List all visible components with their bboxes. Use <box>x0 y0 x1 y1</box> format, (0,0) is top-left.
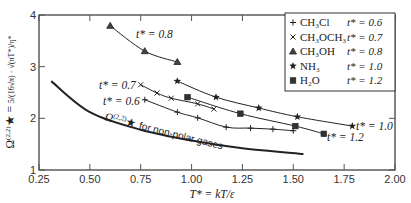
x-tick-label: 1.25 <box>232 173 253 185</box>
y-tick-label: 2 <box>30 112 36 124</box>
y-tick-label: 3 <box>30 61 36 73</box>
legend-species: CH₃Cl <box>300 16 330 28</box>
x-tick-label: 0.75 <box>130 173 151 185</box>
legend-tstar: t* = 0.6 <box>347 16 383 28</box>
cross-marker-icon <box>211 107 216 112</box>
label-nonpolar: Ω(2,2)★ for non-polar gases <box>104 110 225 151</box>
star-marker-icon <box>212 93 220 100</box>
chart: 0.250.500.751.001.251.501.752.001234 Ω(2… <box>0 0 411 203</box>
svg-text:Ω(2,2)★ = 5/(16√π) · √(πT*)/η*: Ω(2,2)★ = 5/(16√π) · √(πT*)/η* <box>4 36 16 149</box>
label-t08: t* = 0.8 <box>136 28 173 40</box>
plus-marker-icon <box>270 126 276 132</box>
square-marker-icon <box>238 111 244 117</box>
label-t07: t* = 0.7 <box>99 79 137 91</box>
svg-text:Ω(2,2)★ for non-polar gases: Ω(2,2)★ for non-polar gases <box>104 110 225 151</box>
y-tick-label: 1 <box>30 164 36 176</box>
plus-marker-icon <box>195 115 201 121</box>
legend-species: NH₃ <box>300 60 320 72</box>
plus-marker-icon <box>174 109 180 115</box>
plus-marker-icon <box>142 97 148 103</box>
triangle-marker-icon <box>141 48 148 54</box>
x-tick-label: 1.75 <box>333 173 354 185</box>
series-line <box>141 85 214 109</box>
star-marker-icon <box>174 77 182 84</box>
star-marker-icon <box>255 104 263 111</box>
legend-tstar: t* = 1.0 <box>347 60 383 72</box>
x-tick-label: 1.00 <box>181 173 202 185</box>
legend-species: CH₃OH <box>300 45 335 57</box>
y-tick-label: 4 <box>30 9 36 21</box>
x-tick-label: 1.50 <box>283 173 304 185</box>
square-marker-icon <box>321 131 327 137</box>
plus-marker-icon <box>223 124 229 130</box>
plus-marker-icon <box>248 125 254 131</box>
legend-species: H₂O <box>300 74 320 86</box>
legend: CH₃Clt* = 0.6CH₃OCH₃t* = 0.7CH₃OHt* = 0.… <box>285 13 395 91</box>
legend-tstar: t* = 1.2 <box>347 74 383 86</box>
legend-tstar: t* = 0.8 <box>347 45 383 57</box>
legend-species: CH₃OCH₃ <box>300 31 346 43</box>
label-t06: t* = 0.6 <box>103 95 140 107</box>
legend-row: CH₃OCH₃t* = 0.7 <box>291 31 383 43</box>
nonpolar-curve <box>51 81 303 154</box>
x-axis-label: T* = kT/ε <box>190 188 235 200</box>
star-marker-icon <box>348 122 356 129</box>
triangle-marker-icon <box>107 22 114 28</box>
cross-marker-icon <box>138 82 143 87</box>
cross-marker-icon <box>154 91 159 96</box>
x-tick-label: 0.50 <box>79 173 100 185</box>
square-marker-icon <box>293 123 299 129</box>
square-marker-icon <box>290 78 296 84</box>
x-tick-label: 2.00 <box>384 173 405 185</box>
star-marker-icon <box>294 113 302 120</box>
label-t12: t* = 1.2 <box>327 131 364 143</box>
square-marker-icon <box>185 94 191 100</box>
legend-tstar: t* = 0.7 <box>347 31 383 43</box>
y-axis-label: Ω(2,2)★ = 5/(16√π) · √(πT*)/η* <box>4 36 16 149</box>
